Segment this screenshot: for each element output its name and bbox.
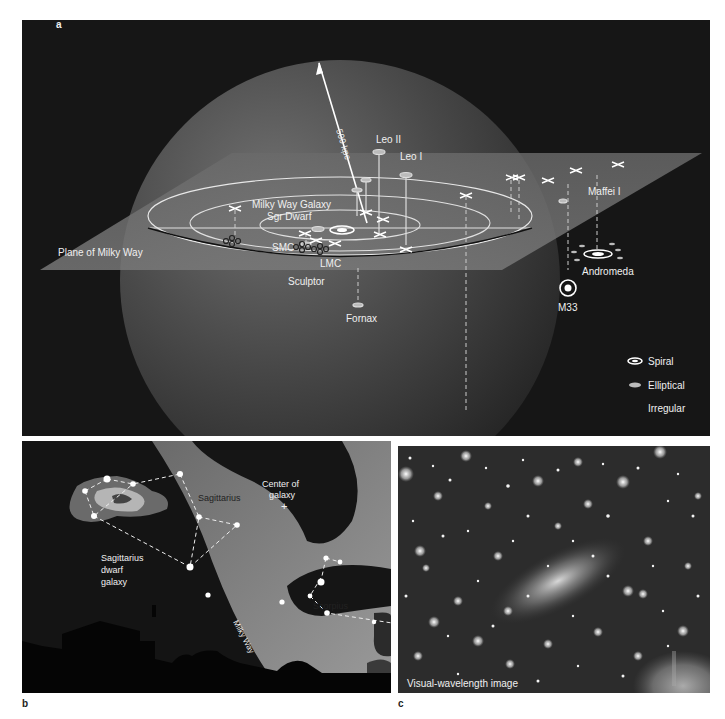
label-sgr-dwarf: Sgr Dwarf	[267, 211, 312, 222]
legend-elliptical-label: Elliptical	[648, 380, 685, 391]
label-maffei-i: Maffei I	[588, 186, 621, 197]
legend-irregular-label: Irregular	[648, 403, 686, 414]
panel-letter-c: c	[398, 698, 404, 709]
local-group-illustration: 500 kpc	[22, 20, 710, 436]
panel-a-local-group-diagram: 500 kpc	[22, 20, 710, 436]
legend: Spiral Elliptical Irregular	[628, 356, 686, 414]
panel-b-night-sky: Sagittarius Center of galaxy + Sagittari…	[22, 441, 391, 693]
label-lmc: LMC	[320, 258, 341, 269]
night-sky-illustration: Sagittarius Center of galaxy + Sagittari…	[22, 441, 391, 693]
label-sgr-dwarf-2: dwarf	[101, 565, 124, 575]
label-galaxy: galaxy	[269, 490, 296, 500]
label-sagittarius: Sagittarius	[198, 493, 241, 503]
label-milky-way-galaxy: Milky Way Galaxy	[252, 199, 331, 210]
galactic-center-marker: +	[281, 500, 287, 512]
label-sgr-dwarf-3: galaxy	[101, 577, 128, 587]
visual-wavelength-photo: Visual-wavelength image	[398, 446, 710, 693]
m33-spiral-icon	[560, 280, 576, 296]
legend-spiral-icon	[628, 358, 642, 364]
label-leo-i: Leo I	[400, 151, 422, 162]
label-smc: SMC	[272, 242, 294, 253]
label-center-of: Center of	[262, 479, 300, 489]
photo-caption: Visual-wavelength image	[407, 678, 518, 689]
sagittarius-dwarf-galaxy-blob	[70, 476, 169, 522]
label-m33: M33	[558, 302, 578, 313]
label-fornax: Fornax	[346, 313, 377, 324]
plane-label: Plane of Milky Way	[58, 247, 143, 258]
panel-letter-a: a	[56, 20, 62, 30]
label-scorpius: Scorpius	[313, 601, 349, 611]
fornax-elliptical-icon	[353, 303, 363, 307]
panel-c-photo: Visual-wavelength image	[398, 446, 710, 693]
legend-elliptical-icon	[629, 383, 641, 388]
panel-letter-b: b	[22, 698, 28, 709]
label-sculptor: Sculptor	[288, 276, 325, 287]
label-leo-ii: Leo II	[376, 134, 401, 145]
label-andromeda: Andromeda	[582, 266, 634, 277]
legend-spiral-label: Spiral	[648, 356, 674, 367]
label-sgr-dwarf-1: Sagittarius	[101, 553, 144, 563]
